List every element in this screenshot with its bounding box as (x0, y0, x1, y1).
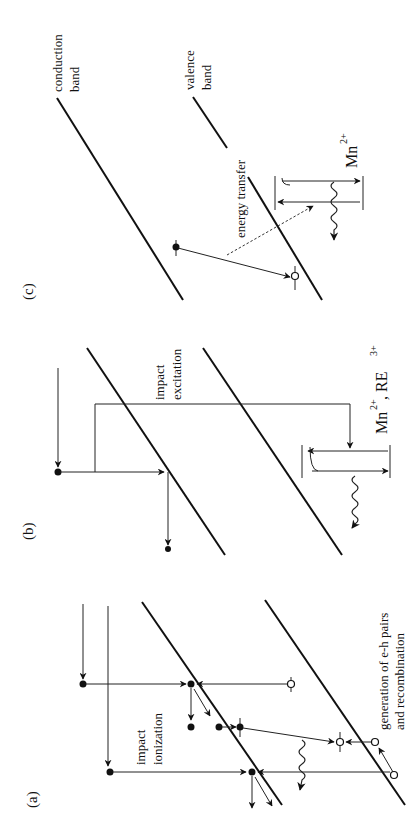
mn-re-ion-label: Mn 2+ , RE 3+ (368, 345, 390, 434)
hot-electron-icon-2 (107, 769, 114, 776)
valence-band-line-upper (193, 97, 227, 148)
mn-ion-label: Mn 2+ (338, 133, 360, 168)
hot-electron-icon-1 (80, 681, 87, 688)
conduction-band-label-2: band (67, 66, 82, 92)
conduction-band-line (142, 602, 282, 805)
secondary-electron-icon-2 (249, 769, 256, 776)
panel-a-label: (a) (24, 791, 41, 808)
emission-wavy-arrow (299, 740, 305, 790)
hole-icon-4 (391, 772, 398, 779)
svg-text:Mn: Mn (343, 146, 360, 168)
secondary-electron-icon-1 (188, 681, 195, 688)
thermal-electron-icon (165, 546, 171, 552)
conduction-band-label-1: conduction (50, 34, 65, 92)
panel-b-label: (b) (20, 523, 37, 541)
diagonal-relax-arrow-1 (194, 689, 210, 716)
panel-c: (c) conduction band valence band energy … (20, 34, 363, 300)
eh-pairs-label-1: generation of e-h pairs (376, 613, 391, 730)
hole-icon (292, 273, 299, 280)
panel-a: (a) impact ionization generation of e-h … (24, 600, 407, 808)
hole-icon-1 (288, 681, 295, 688)
impact-ionization-label-2: ionization (150, 713, 165, 765)
electron-icon (173, 244, 180, 251)
impact-ionization-label-1: impact (133, 729, 148, 765)
impact-excitation-label-2: excitation (169, 348, 184, 400)
panel-c-label: (c) (20, 283, 37, 300)
valence-band-label-1: valence (182, 50, 197, 90)
diagonal-relax-arrow-2 (255, 777, 272, 806)
recombination-arrow (243, 728, 334, 742)
svg-text:, RE: , RE (373, 372, 390, 400)
svg-text:3+: 3+ (368, 345, 379, 356)
eh-pairs-label-2: and recombination (392, 632, 407, 730)
energy-transfer-label: energy transfer (233, 159, 248, 238)
svg-text:Mn: Mn (373, 412, 390, 434)
emission-wavy-arrow (352, 476, 358, 528)
electron-icon-3 (237, 724, 244, 731)
electron-icon-2 (216, 724, 223, 731)
valence-band-line-lower (248, 177, 322, 300)
relaxed-electron-icon-1 (188, 724, 195, 731)
band-diagram-figure: (c) conduction band valence band energy … (0, 0, 416, 819)
svg-text:2+: 2+ (338, 133, 349, 144)
impact-excitation-label-1: impact (152, 364, 167, 400)
hole-icon-3 (372, 739, 379, 746)
hole-icon-2 (337, 739, 344, 746)
valence-band-label-2: band (199, 64, 214, 90)
emission-wavy-arrow (331, 182, 337, 240)
recombination-arrow (178, 248, 290, 277)
panel-b: (b) impact excitation Mn 2+ , RE 3+ (20, 345, 390, 555)
conduction-band-line (57, 98, 183, 300)
